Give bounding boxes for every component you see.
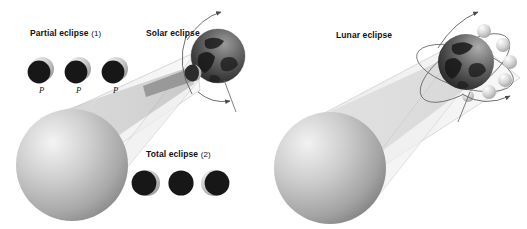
orbit-moon — [482, 85, 496, 99]
partial-eclipse-moon — [65, 57, 91, 83]
lunar-panel-earth — [438, 34, 494, 90]
lunar-eclipse-title: Lunar eclipse — [336, 31, 392, 40]
partial-eclipse-label-text: Partial eclipse — [30, 28, 89, 38]
total-eclipse-moon — [168, 170, 193, 195]
partial-eclipse-moon — [102, 57, 128, 83]
total-eclipse-moon — [201, 170, 229, 196]
eclipse-diagram-figure: Partial eclipse (1) P P P Solar eclipse … — [0, 0, 527, 229]
orbit-moon — [496, 38, 510, 52]
partial-eclipse-moon-row — [28, 57, 128, 83]
orbit-moon — [477, 24, 491, 38]
partial-eclipse-label: Partial eclipse (1) — [30, 29, 101, 38]
total-eclipse-moon — [132, 170, 160, 196]
partial-eclipse-label-number: (1) — [91, 29, 101, 38]
partial-eclipse-moon — [28, 57, 54, 83]
total-eclipse-label: Total eclipse (2) — [146, 150, 211, 159]
partial-eclipse-marker-p: P — [113, 86, 118, 95]
total-eclipse-label-number: (2) — [201, 150, 211, 159]
total-eclipse-label-text: Total eclipse — [146, 149, 198, 159]
earth-axis-line-solar — [224, 80, 236, 112]
partial-eclipse-marker-p: P — [39, 86, 44, 95]
lunar-eclipse-panel — [274, 12, 520, 224]
solar-eclipse-title: Solar eclipse — [146, 29, 200, 38]
solar-panel-moon — [185, 65, 202, 82]
total-eclipse-moon-row — [132, 170, 230, 196]
solar-panel-sun — [16, 109, 128, 221]
partial-eclipse-marker-p: P — [76, 86, 81, 95]
orbit-moon — [503, 55, 517, 69]
lunar-panel-sun — [274, 112, 386, 224]
orbit-moon — [498, 73, 512, 87]
solar-eclipse-panel — [16, 12, 245, 221]
